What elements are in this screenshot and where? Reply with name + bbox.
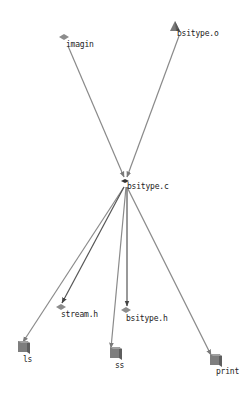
node-label-bsitype_o: bsitype.o bbox=[177, 29, 219, 38]
edges-layer bbox=[23, 36, 211, 355]
node-label-stream_h: stream.h bbox=[61, 310, 98, 319]
edge-bsitype_c-to-stream_h bbox=[62, 187, 124, 303]
node-label-imagin: imagin bbox=[66, 40, 94, 49]
edge-bsitype_c-to-print bbox=[127, 187, 211, 355]
edge-bsitype_c-to-ss bbox=[111, 187, 126, 348]
node-print-box-icon[interactable] bbox=[210, 354, 222, 367]
node-label-bsitype_c: bsitype.c bbox=[127, 182, 169, 191]
node-label-ss: ss bbox=[115, 361, 124, 370]
edge-bsitype_o-to-bsitype_c bbox=[127, 36, 179, 177]
node-label-print: print bbox=[216, 367, 239, 376]
node-ls-box-icon[interactable] bbox=[18, 341, 30, 354]
node-ss-box-icon[interactable] bbox=[110, 347, 122, 360]
node-bsitype_h-diamond-icon[interactable] bbox=[121, 307, 131, 313]
node-label-bsitype_h: bsitype.h bbox=[126, 314, 168, 323]
edge-imagin-to-bsitype_c bbox=[68, 46, 124, 177]
dependency-graph bbox=[0, 0, 251, 399]
node-label-ls: ls bbox=[23, 355, 32, 364]
